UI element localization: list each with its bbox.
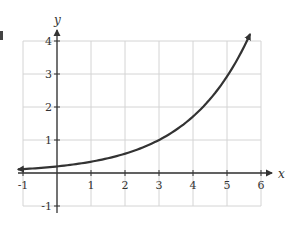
y-tick-label: 1	[45, 134, 52, 147]
x-axis-label: x	[278, 167, 285, 181]
x-tick-label: 1	[88, 179, 95, 192]
y-tick-label: 4	[45, 35, 52, 48]
x-tick-label: -1	[18, 179, 29, 192]
y-tick-label: 3	[45, 68, 52, 81]
y-tick-label: 2	[45, 101, 52, 114]
x-tick-label: 4	[190, 179, 197, 192]
x-tick-label: 3	[156, 179, 163, 192]
axes	[18, 30, 272, 213]
y-axis-label: y	[53, 13, 61, 27]
y-tick-label: -1	[41, 200, 52, 213]
x-tick-label: 5	[224, 179, 231, 192]
x-tick-label: 6	[258, 179, 265, 192]
curve-line	[18, 34, 250, 169]
exponential-graph: -1123456-11234 x y	[0, 0, 297, 229]
x-tick-label: 2	[122, 179, 129, 192]
